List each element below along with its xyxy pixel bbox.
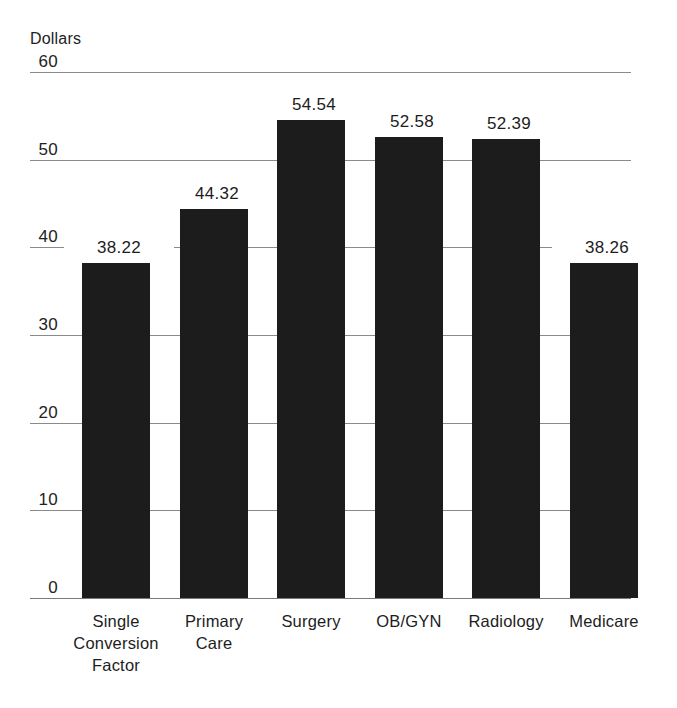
y-axis-tick-label: 0	[0, 578, 58, 598]
category-label-line: OB/GYN	[358, 611, 460, 633]
y-axis-tick-label: 10	[0, 490, 58, 510]
bar	[375, 137, 443, 598]
x-axis-category-label: OB/GYN	[358, 611, 460, 633]
x-axis-category-label: SingleConversionFactor	[65, 611, 167, 676]
category-label-line: Factor	[65, 655, 167, 677]
x-axis-category-label: Radiology	[455, 611, 557, 633]
gridline-60	[30, 72, 631, 73]
y-axis-tick-label: 30	[0, 315, 58, 335]
bar	[180, 209, 248, 598]
y-axis-tick-label: 20	[0, 403, 58, 423]
bar-value-label: 38.22	[64, 238, 174, 258]
category-label-line: Conversion	[65, 633, 167, 655]
y-axis-tick-label: 50	[0, 140, 58, 160]
y-axis-tick-label: 60	[0, 52, 58, 72]
bar	[82, 263, 150, 598]
bar	[570, 263, 638, 598]
category-label-line: Care	[163, 633, 265, 655]
y-axis-tick-label: 40	[0, 227, 58, 247]
plot-area: 010203040506038.22SingleConversionFactor…	[0, 0, 677, 708]
bar-value-label: 44.32	[162, 184, 272, 204]
category-label-line: Radiology	[455, 611, 557, 633]
bar-value-label: 52.58	[357, 112, 467, 132]
category-label-line: Surgery	[260, 611, 362, 633]
x-axis-category-label: Medicare	[553, 611, 655, 633]
bar-chart: Dollars 010203040506038.22SingleConversi…	[0, 0, 677, 708]
x-axis-category-label: PrimaryCare	[163, 611, 265, 655]
x-axis-category-label: Surgery	[260, 611, 362, 633]
bar-value-label: 54.54	[259, 95, 369, 115]
bar	[472, 139, 540, 598]
gridline-0	[30, 598, 631, 599]
category-label-line: Single	[65, 611, 167, 633]
category-label-line: Primary	[163, 611, 265, 633]
bar-value-label: 38.26	[552, 238, 662, 258]
category-label-line: Medicare	[553, 611, 655, 633]
bar	[277, 120, 345, 598]
bar-value-label: 52.39	[454, 114, 564, 134]
